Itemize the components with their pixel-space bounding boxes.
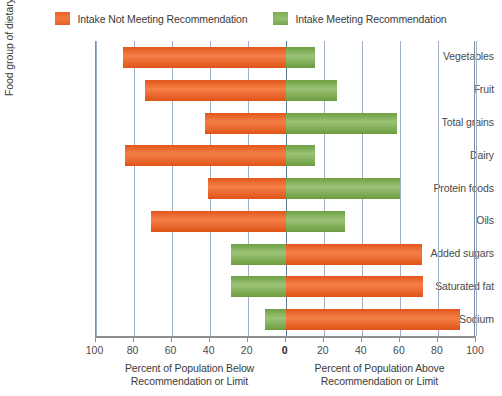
x-axis-tick [475, 336, 476, 342]
x-axis-tick [171, 336, 172, 342]
bar-row [96, 205, 475, 238]
bar-row [96, 238, 475, 271]
x-axis-tick [285, 336, 286, 342]
bar-left[interactable] [145, 80, 286, 101]
x-axis-tick-label: 20 [241, 344, 253, 356]
x-axis-tick-label: 0 [282, 344, 288, 356]
bar-right[interactable] [286, 113, 397, 134]
x-axis-tick-label: 60 [393, 344, 405, 356]
legend-label-meeting: Intake Meeting Recommendation [295, 13, 446, 25]
bar-left[interactable] [231, 276, 285, 297]
y-axis-title: Food group of dietary component [3, 0, 15, 96]
x-axis-tick [323, 336, 324, 342]
bar-right[interactable] [286, 178, 400, 199]
bar-right[interactable] [286, 244, 422, 265]
bar-row [96, 270, 475, 303]
x-axis-tick [133, 336, 134, 342]
bar-row [96, 172, 475, 205]
bar-left[interactable] [231, 244, 286, 265]
bar-right[interactable] [286, 211, 345, 232]
bar-right[interactable] [286, 276, 424, 297]
plot-area [95, 41, 476, 336]
bar-right[interactable] [286, 145, 316, 166]
gridline [476, 41, 477, 336]
x-axis-caption-right-line2: Recommendation or Limit [321, 375, 438, 387]
x-axis-tick-label: 40 [355, 344, 367, 356]
bar-row [96, 74, 475, 107]
x-axis-caption-left-line1: Percent of Population Below [125, 362, 254, 374]
legend-entry-not-meeting[interactable]: Intake Not Meeting Recommendation [55, 12, 247, 25]
legend-entry-meeting[interactable]: Intake Meeting Recommendation [273, 12, 446, 25]
bar-right[interactable] [286, 47, 316, 68]
bar-left[interactable] [205, 113, 285, 134]
legend-label-not-meeting: Intake Not Meeting Recommendation [77, 13, 247, 25]
bar-row [96, 107, 475, 140]
bar-row [96, 139, 475, 172]
legend-swatch-green-icon [273, 12, 288, 25]
x-axis-tick-label: 80 [127, 344, 139, 356]
x-axis-tick [209, 336, 210, 342]
x-axis-tick-label: 100 [466, 344, 484, 356]
bar-left[interactable] [123, 47, 286, 68]
bar-right[interactable] [286, 80, 337, 101]
legend-swatch-orange-icon [55, 12, 70, 25]
x-axis-caption-right-line1: Percent of Population Above [315, 362, 445, 374]
x-axis-tick-label: 60 [165, 344, 177, 356]
x-axis-tick [361, 336, 362, 342]
x-axis-tick-label: 20 [317, 344, 329, 356]
x-axis-tick-label: 80 [431, 344, 443, 356]
chart-page: Intake Not Meeting Recommendation Intake… [0, 0, 502, 396]
x-axis-caption-left: Percent of Population Below Recommendati… [125, 362, 254, 388]
bar-right[interactable] [286, 309, 460, 330]
x-axis-caption-right: Percent of Population Above Recommendati… [315, 362, 445, 388]
bar-row [96, 41, 475, 74]
chart-legend: Intake Not Meeting Recommendation Intake… [0, 12, 502, 25]
bar-left[interactable] [265, 309, 285, 330]
x-axis-tick [437, 336, 438, 342]
bar-left[interactable] [208, 178, 286, 199]
x-axis-tick [95, 336, 96, 342]
x-axis-caption-left-line2: Recommendation or Limit [131, 375, 248, 387]
bar-row [96, 303, 475, 336]
x-axis-tick-label: 40 [203, 344, 215, 356]
x-axis-tick [247, 336, 248, 342]
bar-left[interactable] [125, 145, 286, 166]
x-axis-tick-label: 100 [86, 344, 104, 356]
x-axis-tick [399, 336, 400, 342]
y-axis-label-oils: Oils [476, 214, 494, 226]
bar-left[interactable] [151, 211, 286, 232]
